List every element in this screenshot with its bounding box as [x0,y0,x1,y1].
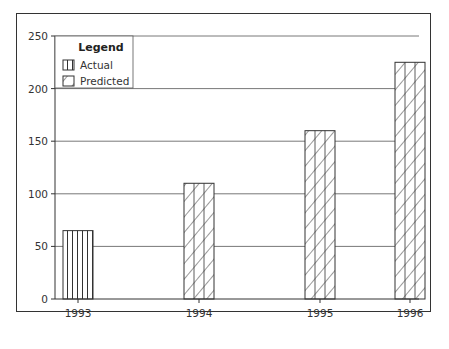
x-tick-label: 1993 [65,307,92,319]
y-tick-label: 150 [28,135,48,147]
x-tick-label: 1995 [307,307,334,319]
legend-swatch-actual [63,60,74,70]
bar-1993 [63,231,93,299]
y-tick-label: 250 [28,30,48,42]
y-tick-label: 200 [28,83,48,95]
bar-chart: 0501001502002501993199419951996 LegendAc… [0,0,449,349]
legend-label: Predicted [80,75,129,87]
legend-title: Legend [78,41,124,54]
bar-1994 [184,183,214,299]
bar-1996 [395,62,425,299]
legend-swatch-predicted [63,76,74,86]
bar-1995 [305,131,335,299]
bars [63,62,425,299]
y-tick-label: 50 [35,240,48,252]
y-tick-label: 100 [28,188,48,200]
x-tick-label: 1996 [397,307,424,319]
x-tick-label: 1994 [186,307,213,319]
legend-label: Actual [80,59,113,71]
legend: LegendActualPredicted [55,36,133,88]
y-tick-label: 0 [41,293,48,305]
